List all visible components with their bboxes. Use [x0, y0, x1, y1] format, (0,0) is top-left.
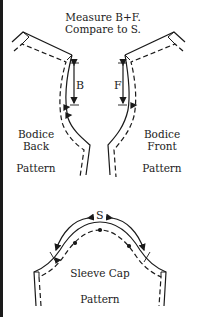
instruction-title: Measure B+F. Compare to S. — [55, 11, 151, 35]
sleeve-cap-label: Sleeve Cap — [55, 267, 145, 279]
bodice-back-label: Bodice Back — [8, 128, 64, 152]
bodice-back-label-line1: Bodice — [8, 128, 64, 140]
measure-label-b: B — [76, 79, 84, 92]
bodice-back-pattern-label: Pattern — [8, 162, 64, 174]
bodice-back-shape — [12, 32, 90, 177]
bodice-back-label-line2: Back — [8, 140, 64, 152]
bodice-front-label-line1: Bodice — [134, 128, 190, 140]
title-line-1: Measure B+F. — [55, 11, 151, 23]
sleeve-cap-pattern-label: Pattern — [55, 293, 145, 305]
bodice-front-shape — [108, 32, 185, 177]
bodice-front-label: Bodice Front — [134, 128, 190, 152]
diagram-frame: Measure B+F. Compare to S. B F S Bodice … — [0, 0, 197, 317]
measure-label-f: F — [114, 79, 122, 92]
bodice-front-label-line2: Front — [134, 140, 190, 152]
title-line-2: Compare to S. — [55, 23, 151, 35]
bodice-front-pattern-label: Pattern — [134, 162, 190, 174]
measure-label-s: S — [96, 209, 104, 222]
